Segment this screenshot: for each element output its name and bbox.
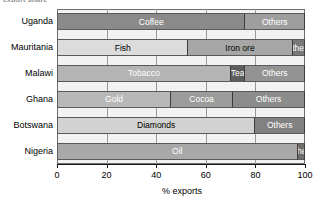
x-tick-label-80: 80 bbox=[250, 170, 260, 180]
x-tick-20 bbox=[107, 164, 108, 168]
bar-segment-label: Gold bbox=[105, 95, 123, 104]
bar-segment: Fish bbox=[57, 39, 188, 56]
bar-segment-label: Others bbox=[298, 147, 305, 156]
bar-segment-label: Tobacco bbox=[128, 69, 160, 78]
bar-row: OilOthers bbox=[57, 143, 305, 160]
bar-row: TobaccoTeaOthers bbox=[57, 65, 305, 82]
bar-segment-label: Others bbox=[256, 95, 282, 104]
y-axis-label-uganda: Uganda bbox=[0, 13, 53, 30]
bar-segment: Others bbox=[255, 117, 305, 134]
x-tick-label-0: 0 bbox=[54, 170, 59, 180]
x-tick-100 bbox=[305, 164, 306, 168]
bar-row: FishIron oreOthers bbox=[57, 39, 305, 56]
bar-segment: Cocoa bbox=[171, 91, 233, 108]
stacked-bar-chart: export share CoffeeOthersFishIron oreOth… bbox=[0, 0, 314, 206]
x-tick-label-40: 40 bbox=[151, 170, 161, 180]
x-tick-60 bbox=[206, 164, 207, 168]
x-axis-title-text: % exports bbox=[162, 186, 202, 196]
bar-segment-label: Others bbox=[262, 69, 288, 78]
bar-segment: Iron ore bbox=[188, 39, 292, 56]
x-axis-title: % exports bbox=[0, 186, 314, 196]
bar-segment: Oil bbox=[57, 143, 298, 160]
bar-segment: Others bbox=[245, 65, 305, 82]
bar-rows: CoffeeOthersFishIron oreOthersTobaccoTea… bbox=[57, 9, 305, 164]
bar-segment-label: Others bbox=[293, 44, 305, 53]
bar-segment: Others bbox=[245, 13, 305, 30]
bar-segment-label: Diamonds bbox=[137, 121, 175, 130]
bar-segment: Diamonds bbox=[57, 117, 255, 134]
bar-row: GoldCocoaOthers bbox=[57, 91, 305, 108]
bar-segment-label: Iron ore bbox=[225, 44, 254, 53]
x-tick-80 bbox=[255, 164, 256, 168]
y-axis-label-mauritania: Mauritania bbox=[0, 39, 53, 56]
y-axis-label-ghana: Ghana bbox=[0, 91, 53, 108]
bar-segment: Others bbox=[298, 143, 305, 160]
bar-segment: Gold bbox=[57, 91, 171, 108]
bar-segment-label: Others bbox=[267, 121, 293, 130]
x-axis-line bbox=[57, 164, 306, 165]
bar-segment: Tobacco bbox=[57, 65, 231, 82]
plot-area: CoffeeOthersFishIron oreOthersTobaccoTea… bbox=[57, 9, 305, 164]
y-axis-label-nigeria: Nigeria bbox=[0, 143, 53, 160]
bar-segment-label: Coffee bbox=[139, 18, 164, 27]
top-caption: export share bbox=[3, 0, 47, 2]
x-tick-label-60: 60 bbox=[201, 170, 211, 180]
bar-segment-label: Others bbox=[262, 18, 288, 27]
bar-segment-label: Tea bbox=[231, 69, 245, 78]
bar-segment: Coffee bbox=[57, 13, 245, 30]
bar-row: CoffeeOthers bbox=[57, 13, 305, 30]
bar-row: DiamondsOthers bbox=[57, 117, 305, 134]
y-axis-labels: UgandaMauritaniaMalawiGhanaBotswanaNiger… bbox=[0, 9, 53, 164]
y-axis-label-botswana: Botswana bbox=[0, 117, 53, 134]
x-tick-label-100: 100 bbox=[297, 170, 312, 180]
y-axis-label-malawi: Malawi bbox=[0, 65, 53, 82]
x-tick-40 bbox=[156, 164, 157, 168]
bar-segment-label: Fish bbox=[115, 44, 131, 53]
bar-segment: Others bbox=[293, 39, 305, 56]
x-tick-0 bbox=[57, 164, 58, 168]
x-tick-label-20: 20 bbox=[102, 170, 112, 180]
bar-segment: Tea bbox=[231, 65, 246, 82]
bar-segment-label: Oil bbox=[172, 147, 182, 156]
bar-segment-label: Cocoa bbox=[189, 95, 214, 104]
bar-segment: Others bbox=[233, 91, 305, 108]
